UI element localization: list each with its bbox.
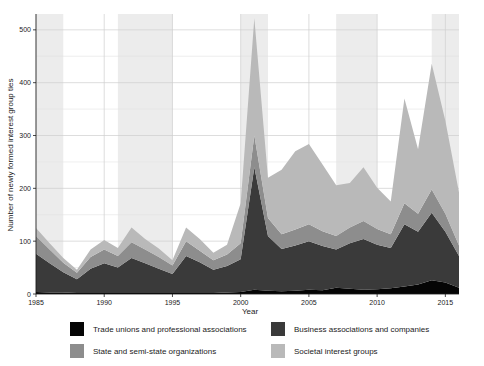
legend-item[interactable]: Business associations and companies <box>271 322 429 336</box>
legend-label: State and semi-state organizations <box>93 347 216 356</box>
x-tick-label: 2015 <box>438 299 454 306</box>
y-axis-title: Number of newly formed interest group ti… <box>6 79 15 232</box>
legend-label: Trade unions and professional associatio… <box>93 325 247 334</box>
x-tick-label: 1995 <box>165 299 181 306</box>
legend-swatch <box>70 322 84 336</box>
legend-swatch <box>271 322 285 336</box>
x-tick-label: 1990 <box>96 299 112 306</box>
x-axis-title: Year <box>242 307 259 316</box>
x-tick-label: 2010 <box>369 299 385 306</box>
y-tick-label: 200 <box>19 185 31 192</box>
y-tick-label: 0 <box>27 291 31 298</box>
y-tick-label: 100 <box>19 238 31 245</box>
y-tick-label: 500 <box>19 26 31 33</box>
x-tick-label: 2000 <box>233 299 249 306</box>
x-tick-label: 1985 <box>28 299 44 306</box>
chart-svg: 0100200300400500 19851990199520002005201… <box>0 0 484 366</box>
x-tick-label: 2005 <box>301 299 317 306</box>
stacked-area-chart-figure: 0100200300400500 19851990199520002005201… <box>0 0 484 366</box>
legend-item[interactable]: Trade unions and professional associatio… <box>70 322 247 336</box>
legend-label: Societal interest groups <box>294 347 378 356</box>
legend-swatch <box>70 344 84 358</box>
y-tick-label: 400 <box>19 79 31 86</box>
legend-label: Business associations and companies <box>294 325 429 334</box>
legend-swatch <box>271 344 285 358</box>
y-tick-label: 300 <box>19 132 31 139</box>
